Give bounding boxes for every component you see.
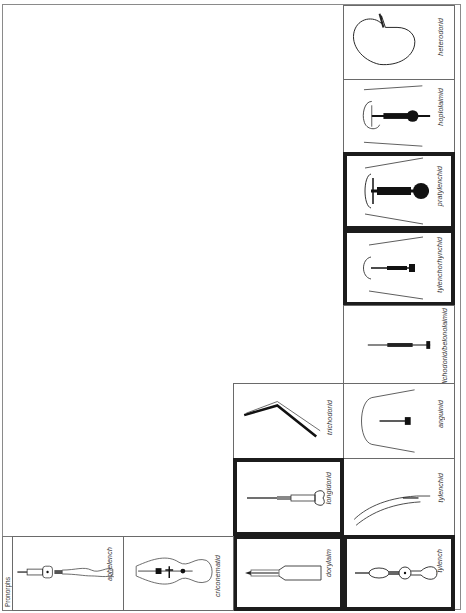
pronorphs-label: Pronorphs [4, 577, 11, 607]
hoplolaimid-label: hoplolaimid [437, 88, 444, 126]
panel-trichodorid: trichodorid [233, 383, 344, 459]
anguinid-label: anguinid [437, 400, 444, 428]
criconematid-label: criconematid [214, 555, 221, 597]
panel-pratylenchid: pratylenchid [343, 152, 455, 230]
trichodorid-label: trichodorid [326, 400, 333, 435]
dolichodorid-label: dolichodorid/belonolaimid [441, 308, 448, 392]
aphelench-label: aphelench [106, 547, 113, 581]
tylenchid-label: tylenchid [437, 473, 444, 502]
panel-tylenchid: tylenchid [343, 458, 455, 536]
panel-longidorid: longidorid [233, 458, 344, 536]
panel-dorylaim: dorylaim [233, 535, 344, 611]
dorylaim-label: dorylaim [325, 549, 332, 577]
tylench-label: tylench [436, 549, 443, 573]
panel-anguinid: anguinid [343, 383, 455, 459]
panel-tylenchorhynchid: tylenchorhynchid [343, 229, 455, 306]
panel-heterodorid: heterodorid [343, 5, 455, 80]
heterodorid-label: heterodorid [437, 18, 444, 56]
panel-aphelench: aphelench [12, 536, 124, 611]
tylenchorhynchid-label: tylenchorhynchid [436, 237, 443, 293]
panel-tylench: tylench [343, 535, 455, 611]
dolichodorid-icon [344, 306, 454, 383]
panel-criconematid: criconematid [123, 536, 234, 611]
longidorid-label: longidorid [325, 472, 332, 504]
panel-hoplolaimid: hoplolaimid [343, 79, 455, 153]
panel-dolichodorid: dolichodorid/belonolaimid [343, 305, 455, 384]
pratylenchid-label: pratylenchid [436, 166, 443, 206]
